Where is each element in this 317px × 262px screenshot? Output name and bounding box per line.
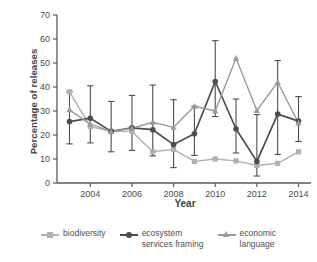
data-point-biodiversity — [150, 149, 155, 154]
data-point-economic-language — [66, 107, 72, 113]
data-point-biodiversity — [192, 159, 197, 164]
data-point-biodiversity — [296, 149, 301, 154]
error-bar-ecosystem-services-framing — [66, 92, 72, 144]
y-tick-label-20: 20 — [40, 130, 50, 140]
square-marker-icon — [41, 229, 59, 240]
error-bar-ecosystem-services-framing — [274, 61, 280, 155]
error-bar-ecosystem-services-framing — [108, 101, 114, 151]
data-point-ecosystem-services-framing — [150, 127, 156, 133]
data-point-biodiversity — [233, 158, 238, 163]
legend-label-economic-language: economic language — [240, 228, 276, 249]
x-tick-label-2004: 2004 — [80, 189, 100, 199]
x-tick-label-2012: 2012 — [247, 189, 267, 199]
y-tick-label-0: 0 — [45, 178, 50, 188]
data-point-economic-language — [233, 55, 239, 61]
data-point-ecosystem-services-framing — [233, 126, 239, 132]
legend-item-ecosystem-services-framing[interactable]: ecosystem services framing — [120, 228, 204, 249]
x-tick-label-2014: 2014 — [288, 189, 308, 199]
x-tick-label-2010: 2010 — [205, 189, 225, 199]
y-tick-label-70: 70 — [40, 10, 50, 20]
data-point-biodiversity — [171, 147, 176, 152]
data-point-ecosystem-services-framing — [67, 119, 73, 125]
data-point-biodiversity — [67, 89, 72, 94]
data-point-biodiversity — [213, 156, 218, 161]
y-tick-label-10: 10 — [40, 154, 50, 164]
data-point-ecosystem-services-framing — [88, 115, 94, 121]
circle-marker-icon — [120, 229, 138, 240]
error-bar-ecosystem-services-framing — [170, 100, 176, 168]
y-tick-label-50: 50 — [40, 58, 50, 68]
error-bar-ecosystem-services-framing — [129, 95, 135, 150]
data-point-ecosystem-services-framing — [212, 79, 218, 85]
chart-legend: biodiversity ecosystem services framing … — [0, 228, 317, 249]
error-bar-ecosystem-services-framing — [87, 86, 93, 143]
triangle-marker-icon — [218, 229, 236, 240]
data-point-economic-language — [275, 79, 281, 85]
data-point-economic-language — [150, 119, 156, 125]
data-point-ecosystem-services-framing — [275, 111, 281, 117]
x-tick-label-2008: 2008 — [164, 189, 184, 199]
y-tick-label-30: 30 — [40, 106, 50, 116]
y-tick-label-60: 60 — [40, 34, 50, 44]
plot-area: 010203040506070200420062008201020122014 — [0, 0, 317, 262]
data-point-ecosystem-services-framing — [171, 142, 177, 148]
data-point-ecosystem-services-framing — [192, 131, 198, 137]
legend-item-economic-language[interactable]: economic language — [218, 228, 276, 249]
chart-figure: Percentage of releases Year 010203040506… — [0, 0, 317, 262]
x-tick-label-2006: 2006 — [122, 189, 142, 199]
error-bar-ecosystem-services-framing — [191, 106, 197, 155]
series-line-ecosystem-services-framing — [69, 81, 298, 161]
series-line-economic-language — [69, 58, 298, 131]
legend-item-biodiversity[interactable]: biodiversity — [41, 228, 106, 240]
data-point-biodiversity — [275, 161, 280, 166]
data-point-ecosystem-services-framing — [254, 159, 260, 165]
y-tick-label-40: 40 — [40, 82, 50, 92]
legend-label-biodiversity: biodiversity — [63, 228, 106, 239]
legend-label-ecosystem-services-framing: ecosystem services framing — [142, 228, 204, 249]
